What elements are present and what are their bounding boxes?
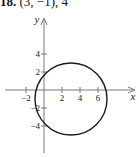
- y-tick-label: 4: [36, 49, 41, 59]
- x-tick-label: −2: [21, 93, 31, 103]
- y-axis-label: y: [34, 13, 40, 25]
- x-axis-label: x: [130, 90, 136, 102]
- x-tick-label: 2: [60, 93, 65, 103]
- x-tick-label: 4: [78, 93, 83, 103]
- x-tick-label: 6: [96, 93, 101, 103]
- y-tick-label: 2: [36, 67, 41, 77]
- circle-graph: −2 2 4 6 4 2 −2 −4 x y: [0, 0, 139, 157]
- y-tick-label: −4: [30, 121, 40, 131]
